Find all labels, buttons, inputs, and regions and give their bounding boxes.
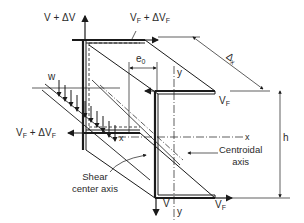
label-y-top: y xyxy=(177,68,182,78)
label-sub: F xyxy=(226,100,230,107)
label-sub: F xyxy=(222,204,226,211)
label-text: V xyxy=(215,199,222,210)
label-vf-plus-dvf-left: VF + ΔVF xyxy=(16,128,56,139)
label-sub: 0 xyxy=(142,58,146,65)
label-shear-center-axis: Shear center axis xyxy=(72,172,118,193)
dimension-lines xyxy=(129,37,290,198)
label-text: + ΔV xyxy=(141,12,166,23)
label-vf-right-top: VF xyxy=(219,96,230,107)
label-text: V xyxy=(130,12,137,23)
label-line: axis xyxy=(219,157,262,167)
label-line: Shear xyxy=(72,172,118,182)
label-x-right: x xyxy=(245,133,250,142)
label-y-bottom: y xyxy=(177,207,182,217)
label-v-plus-dv: V + ΔV xyxy=(44,13,75,23)
label-text: V xyxy=(16,127,23,138)
label-vf-plus-dvf-top: VF + ΔVF xyxy=(130,13,170,24)
label-vf-bottom: VF xyxy=(215,200,226,211)
beam-diagram-svg xyxy=(0,0,304,223)
label-e0: e0 xyxy=(136,54,145,65)
label-v-bottom: V xyxy=(163,199,170,209)
far-channel-section xyxy=(155,91,215,198)
longitudinal-edges xyxy=(32,40,215,198)
label-x-left: x xyxy=(119,134,124,143)
label-sub: F xyxy=(52,132,56,139)
label-text: + ΔV xyxy=(27,127,52,138)
label-line: Centroidal xyxy=(219,145,262,155)
label-line: center axis xyxy=(72,184,118,194)
label-sub: F xyxy=(166,17,170,24)
label-centroidal-axis: Centroidal axis xyxy=(219,145,262,166)
label-w: w xyxy=(48,72,55,82)
label-text: V xyxy=(219,95,226,106)
label-h: h xyxy=(283,133,289,143)
diagram-canvas: V + ΔV VF + ΔVF Δx e0 y w VF VF + ΔVF x … xyxy=(0,0,304,223)
